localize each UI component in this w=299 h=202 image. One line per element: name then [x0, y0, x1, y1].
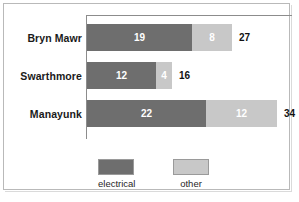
category-label-swarthmore: Swarthmore — [6, 70, 82, 82]
bar-value-other-swarthmore: 4 — [156, 71, 172, 81]
legend-item-other[interactable]: other — [173, 159, 209, 189]
category-label-bryn-mawr: Bryn Mawr — [6, 32, 82, 44]
bar-segment-electrical-swarthmore[interactable]: 12 — [87, 62, 156, 89]
legend-label-electrical: electrical — [98, 178, 136, 189]
legend-swatch-other-icon — [173, 159, 209, 175]
bar-segment-electrical-bryn-mawr[interactable]: 19 — [87, 24, 192, 51]
legend-item-electrical[interactable]: electrical — [98, 159, 136, 189]
bar-total-bryn-mawr: 27 — [239, 33, 250, 43]
chart-screenshot: Bryn Mawr Swarthmore Manayunk 19 8 27 12… — [0, 0, 299, 202]
bar-value-electrical-bryn-mawr: 19 — [87, 33, 192, 43]
bar-segment-electrical-manayunk[interactable]: 22 — [87, 100, 206, 127]
legend-swatch-electrical-icon — [98, 159, 134, 175]
chart-frame: Bryn Mawr Swarthmore Manayunk 19 8 27 12… — [3, 3, 290, 190]
bar-segment-other-bryn-mawr[interactable]: 8 — [192, 24, 232, 51]
chart-legend: electrical other — [4, 159, 294, 192]
bar-segment-other-swarthmore[interactable]: 4 — [156, 62, 172, 89]
bar-row-swarthmore: 12 4 16 — [87, 62, 172, 89]
bar-total-swarthmore: 16 — [179, 71, 190, 81]
bar-value-other-bryn-mawr: 8 — [192, 33, 232, 43]
bar-row-bryn-mawr: 19 8 27 — [87, 24, 232, 51]
bar-value-electrical-swarthmore: 12 — [87, 71, 156, 81]
bar-total-manayunk: 34 — [284, 109, 295, 119]
bar-row-manayunk: 22 12 34 — [87, 100, 277, 127]
bar-segment-other-manayunk[interactable]: 12 — [206, 100, 277, 127]
legend-label-other: other — [173, 178, 209, 189]
category-label-manayunk: Manayunk — [6, 108, 82, 120]
cropped-caption-artifact — [4, 194, 264, 200]
bar-value-electrical-manayunk: 22 — [87, 109, 206, 119]
category-axis-labels: Bryn Mawr Swarthmore Manayunk — [4, 4, 82, 149]
plot-top-rule — [86, 15, 292, 16]
bar-value-other-manayunk: 12 — [206, 109, 277, 119]
